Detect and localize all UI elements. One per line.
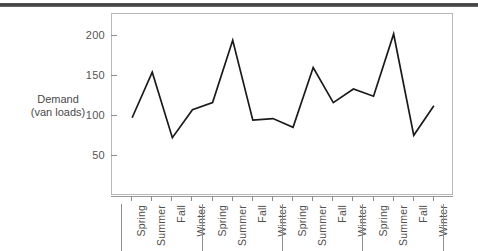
x-axis-tick-label: Fall (417, 205, 429, 223)
x-axis-line (111, 196, 453, 197)
x-axis-tick-mark (151, 196, 152, 201)
x-axis-tick-label: Summer (316, 205, 328, 246)
x-axis-tick-label: Spring (135, 205, 147, 237)
y-axis-tick-label: 50 (92, 149, 105, 161)
demand-line-series (112, 14, 454, 196)
y-axis-tick-mark (111, 115, 117, 116)
y-axis-tick-label: 200 (86, 29, 105, 41)
x-axis-tick-mark (212, 196, 213, 201)
x-axis-tick-label: Summer (397, 205, 409, 246)
x-axis-tick-label: Fall (175, 205, 187, 223)
y-axis-tick-mark (111, 155, 117, 156)
x-axis-tick-mark (373, 196, 374, 201)
y-axis-tick-label: 100 (86, 109, 105, 121)
x-axis-tick-mark (292, 196, 293, 201)
x-axis-tick-label: Summer (155, 205, 167, 246)
x-axis-tick-mark (252, 196, 253, 201)
x-axis-tick-label: Spring (296, 205, 308, 237)
x-axis-tick-label: Fall (336, 205, 348, 223)
y-axis-tick-mark (111, 35, 117, 36)
x-axis-tick-label: Summer (236, 205, 248, 246)
x-axis-tick-mark (433, 196, 434, 201)
x-axis-tick-mark (352, 196, 353, 201)
year-group-separator (121, 204, 122, 251)
x-axis-tick-mark (413, 196, 414, 201)
line-chart-figure: Demand (van loads) 50100150200 SpringSum… (0, 0, 478, 251)
x-axis-tick-mark (312, 196, 313, 201)
x-axis-tick-mark (131, 196, 132, 201)
year-group-separator (362, 204, 363, 251)
y-axis-tick-label: 150 (86, 69, 105, 81)
x-axis-tick-label: Spring (216, 205, 228, 237)
plot-area (111, 13, 453, 195)
x-axis-tick-mark (272, 196, 273, 201)
x-axis-tick-mark (232, 196, 233, 201)
x-axis-tick-mark (332, 196, 333, 201)
x-axis-tick-mark (393, 196, 394, 201)
year-group-separator (202, 204, 203, 251)
year-group-separator (443, 204, 444, 251)
x-axis-tick-mark (191, 196, 192, 201)
y-axis-tick-labels: 50100150200 (60, 0, 105, 251)
x-axis-tick-mark (171, 196, 172, 201)
year-group-separator (282, 204, 283, 251)
x-axis-tick-label: Spring (377, 205, 389, 237)
x-axis-tick-label: Fall (256, 205, 268, 223)
demand-polyline (132, 34, 434, 138)
y-axis-tick-mark (111, 75, 117, 76)
